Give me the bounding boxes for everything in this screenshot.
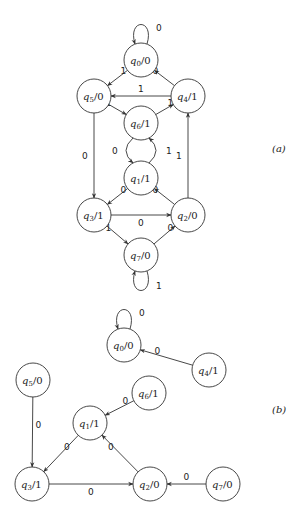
edge-label: 0 [156,23,162,33]
edge-q3-q7: 1 [106,223,129,244]
state-node-q0: q0/0 [107,328,141,362]
edge-label: 1 [156,281,162,291]
diagram-a: 0101110011000101 q0/0q5/0q4/1q6/1q1/1q3/… [77,23,286,291]
edge-label: 0 [139,308,145,318]
edge-q4-q5: 1 [111,84,171,96]
state-node-q6: q6/1 [124,106,158,140]
edge-q6-q4: 1 [156,98,174,115]
state-node-q2: q2/0 [171,198,205,232]
edge-q3-q2: 0 [111,215,171,228]
edge-q2-q4: 1 [176,113,188,198]
edge-label: 0 [82,151,88,161]
state-node-q3: q3/1 [15,467,49,501]
edge-label: 0 [168,223,174,233]
edge-label: 0 [112,146,118,156]
state-node-q2: q2/0 [133,467,167,501]
edge-label: 0 [64,442,70,452]
edge-q7-q2: 0 [167,472,206,484]
edge-label: 1 [138,84,144,94]
edge-q1-q6: 1 [149,138,172,163]
edge-q2-q1: 0 [153,185,175,205]
edge-q6-q1: 0 [112,138,133,163]
panel-label-a: (a) [272,143,286,154]
state-diagram: 0101110011000101 q0/0q5/0q4/1q6/1q1/1q3/… [0,0,306,512]
diagram-b-nodes: q0/0q4/1q5/0q6/1q1/1q3/1q2/0q7/0 [15,328,240,501]
state-node-q4: q4/1 [171,79,205,113]
state-node-q5: q5/0 [77,79,111,113]
diagram-a-nodes: q0/0q5/0q4/1q6/1q1/1q3/1q2/0q7/0 [77,43,205,272]
edge-q4-q0: 0 [140,346,192,366]
state-node-q3: q3/1 [77,198,111,232]
edge-label: 1 [166,146,172,156]
edge-q1-q3: 0 [107,185,127,205]
state-node-q1: q1/1 [73,406,107,440]
panel-label-b: (b) [272,404,286,415]
edge-q0-q0: 0 [134,23,162,44]
edge-label: 0 [123,396,129,406]
state-node-q7: q7/0 [206,467,240,501]
edge-q0-q0: 0 [117,308,145,329]
edge-q7-q2: 0 [154,223,175,244]
state-node-q4: q4/1 [192,353,226,387]
edge-label: 1 [176,151,182,161]
diagram-b: 00000000 q0/0q4/1q5/0q6/1q1/1q3/1q2/0q7/… [15,308,286,501]
edge-label: 0 [138,218,144,228]
edge-label: 0 [155,346,161,356]
state-node-q6: q6/1 [132,376,166,410]
edge-q6-q1: 0 [105,396,134,415]
state-node-q7: q7/0 [124,238,158,272]
edge-label: 0 [184,472,190,482]
state-node-q5: q5/0 [16,363,50,397]
edge-q3-q2: 0 [49,484,133,497]
edge-label: 0 [108,442,114,452]
state-node-q1: q1/1 [124,161,158,195]
state-node-q0: q0/0 [124,43,158,77]
edge-label: 0 [88,487,94,497]
edge-label: 0 [36,420,42,430]
edge-q7-q7: 1 [134,271,162,291]
edge-q2-q1: 0 [102,435,138,472]
edge-q5-q3: 0 [32,397,41,467]
edge-q5-q3: 0 [82,113,94,198]
edge-q0-q5: 1 [107,66,127,86]
edge-q1-q3: 0 [44,435,79,471]
